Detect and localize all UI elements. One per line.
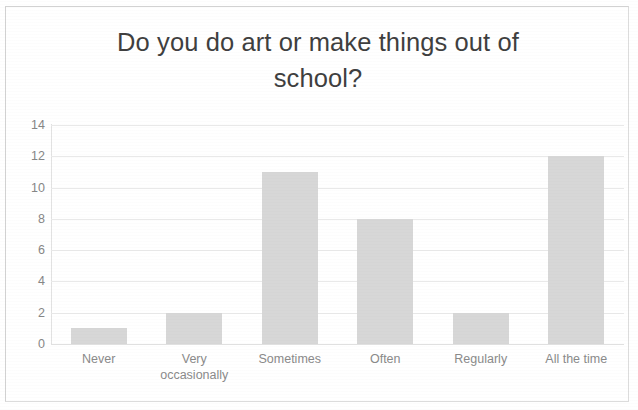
bar (453, 313, 509, 344)
y-axis-tick-label: 6 (15, 244, 45, 256)
gridline (51, 250, 624, 251)
x-axis-tick-labels: NeverVery occasionallySometimesOftenRegu… (51, 351, 624, 399)
plot-area (51, 125, 624, 344)
y-axis-tick-label: 10 (15, 182, 45, 194)
bar (166, 313, 222, 344)
gridline (51, 219, 624, 220)
y-axis-tick-label: 0 (15, 338, 45, 350)
gridline (51, 281, 624, 282)
x-axis-tick-label: Often (338, 351, 434, 367)
x-axis-tick-label: All the time (529, 351, 625, 367)
chart-title: Do you do art or make things out of scho… (40, 24, 596, 96)
bar (71, 328, 127, 344)
y-axis-tick-label: 8 (15, 213, 45, 225)
y-axis-tick-label: 14 (15, 119, 45, 131)
gridline (51, 344, 624, 345)
gridline (51, 125, 624, 126)
gridline (51, 156, 624, 157)
y-axis-tick-label: 2 (15, 307, 45, 319)
x-axis-tick-label: Very occasionally (147, 351, 243, 383)
bar (262, 172, 318, 344)
gridline (51, 188, 624, 189)
bar (357, 219, 413, 344)
y-axis-tick-labels: 14121086420 (12, 125, 45, 344)
bar (548, 156, 604, 344)
y-axis-tick-label: 12 (15, 150, 45, 162)
y-axis-tick-label: 4 (15, 275, 45, 287)
x-axis-tick-label: Sometimes (242, 351, 338, 367)
gridline (51, 313, 624, 314)
x-axis-tick-label: Regularly (433, 351, 529, 367)
x-axis-tick-label: Never (51, 351, 147, 367)
